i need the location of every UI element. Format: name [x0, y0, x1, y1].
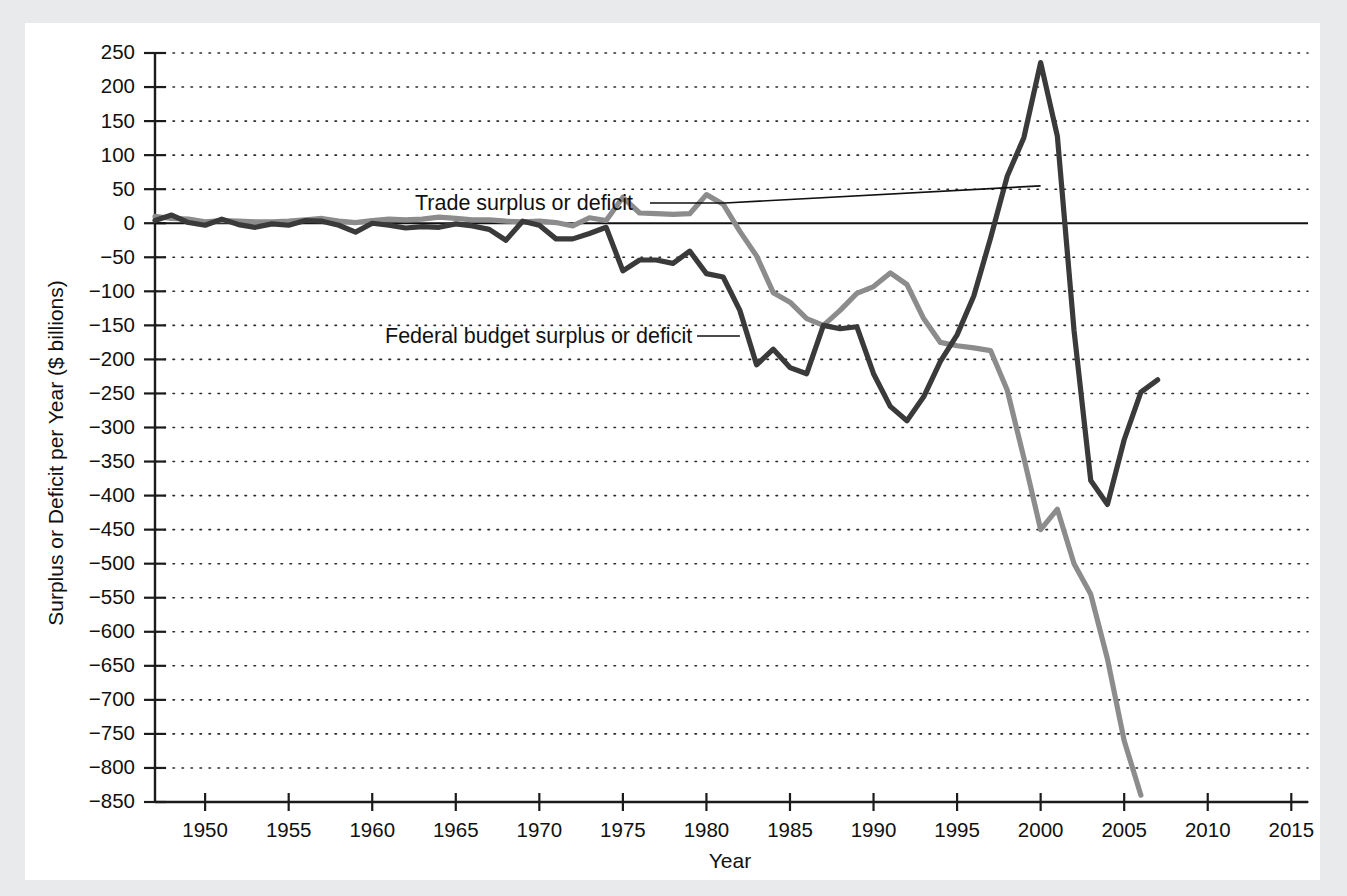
y-axis-tick-label: −250	[89, 381, 135, 404]
y-axis-tick-label: 200	[101, 74, 135, 97]
x-axis-tick-label: 1990	[851, 818, 897, 841]
axis-tick-labels: 250200150100500−50−100−150−200−250−300−3…	[89, 40, 1314, 841]
y-axis-tick-label: −550	[89, 585, 135, 608]
y-axis-tick-label: −850	[89, 789, 135, 812]
y-axis-tick-label: −500	[89, 551, 135, 574]
x-axis-tick-label: 2010	[1185, 818, 1231, 841]
x-axis-tick-label: 1975	[600, 818, 646, 841]
y-axis-title: Surplus or Deficit per Year ($ billions)	[44, 280, 67, 626]
y-axis-tick-label: 0	[124, 211, 135, 234]
x-axis-tick-label: 2015	[1268, 818, 1314, 841]
axis-ticks	[144, 53, 1291, 811]
x-axis-tick-label: 1980	[684, 818, 730, 841]
y-axis-tick-label: −200	[89, 347, 135, 370]
x-axis-tick-label: 1960	[349, 818, 395, 841]
annotation-trade-label: Trade surplus or deficit	[415, 191, 633, 215]
y-axis-tick-label: −600	[89, 619, 135, 642]
y-axis-tick-label: 150	[101, 109, 135, 132]
x-axis-tick-label: 1950	[182, 818, 228, 841]
y-axis-tick-label: 100	[101, 143, 135, 166]
y-axis-tick-label: −150	[89, 313, 135, 336]
x-axis-tick-label: 1965	[433, 818, 479, 841]
grid-lines	[155, 53, 1308, 802]
x-axis-tick-label: 1955	[266, 818, 312, 841]
x-axis-tick-label: 1985	[767, 818, 813, 841]
y-axis-tick-label: −350	[89, 449, 135, 472]
y-axis-tick-label: −650	[89, 653, 135, 676]
x-axis-tick-label: 2000	[1018, 818, 1064, 841]
page-top-strip	[0, 0, 1347, 23]
line-chart: 250200150100500−50−100−150−200−250−300−3…	[25, 23, 1320, 880]
series-line-budget	[155, 63, 1158, 505]
y-axis-tick-label: −100	[89, 279, 135, 302]
y-axis-tick-label: −400	[89, 483, 135, 506]
y-axis-tick-label: −300	[89, 415, 135, 438]
y-axis-tick-label: 250	[101, 40, 135, 63]
x-axis-tick-label: 1995	[934, 818, 980, 841]
chart-page: 250200150100500−50−100−150−200−250−300−3…	[0, 0, 1347, 896]
y-axis-tick-label: −750	[89, 721, 135, 744]
y-axis-tick-label: −800	[89, 755, 135, 778]
y-axis-tick-label: −700	[89, 687, 135, 710]
y-axis-tick-label: −450	[89, 517, 135, 540]
chart-card: 250200150100500−50−100−150−200−250−300−3…	[25, 23, 1320, 880]
x-axis-tick-label: 2005	[1101, 818, 1147, 841]
annotation-budget-label: Federal budget surplus or deficit	[385, 324, 692, 348]
x-axis-title: Year	[709, 849, 751, 872]
y-axis-tick-label: −50	[100, 245, 135, 268]
y-axis-tick-label: 50	[112, 177, 135, 200]
x-axis-tick-label: 1970	[517, 818, 563, 841]
